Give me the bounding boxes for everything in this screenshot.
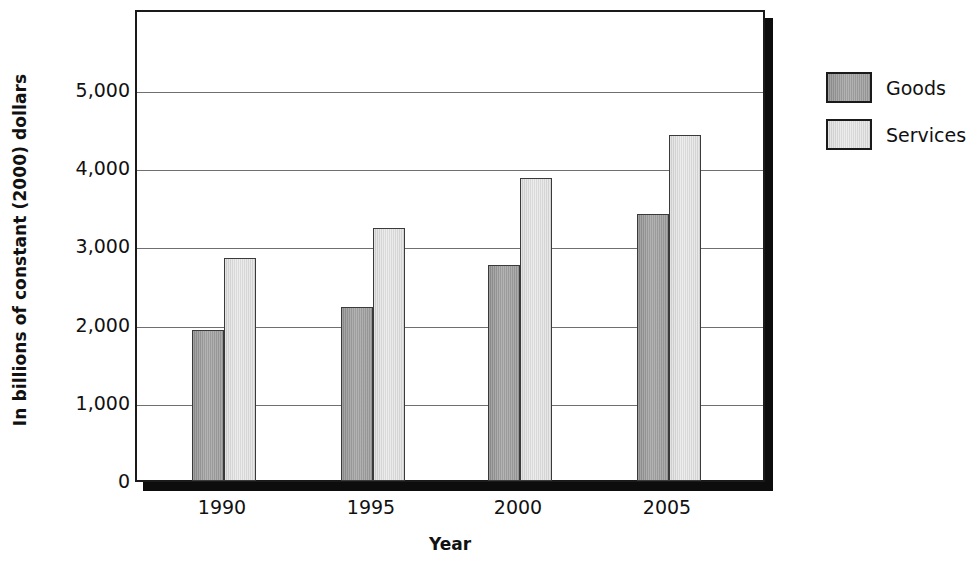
y-tick-label: 0 [52,470,130,492]
x-tick-label-2000: 2000 [458,496,578,518]
services-swatch [826,119,872,150]
x-tick-label-1990: 1990 [162,496,282,518]
x-axis-title: Year [135,534,765,554]
plot-frame-right-shadow [765,18,773,490]
bar-services-1990 [224,258,256,481]
plot-area [135,10,765,482]
y-tick-label: 4,000 [52,157,130,179]
y-axis-tick-labels: 01,0002,0003,0004,0005,000 [44,0,130,567]
bar-goods-2005 [637,214,669,481]
y-tick-label: 3,000 [52,235,130,257]
bar-goods-1995 [341,307,373,481]
plot-frame-bottom-shadow [143,482,773,491]
bar-services-2000 [520,178,552,481]
bar-services-2005 [669,135,701,481]
gridline [137,92,763,93]
legend-item-goods: Goods [826,64,976,111]
y-axis-title-text: In billions of constant (2000) dollars [10,74,30,426]
goods-swatch [826,72,872,103]
legend-label: Services [886,124,966,146]
bar-services-1995 [373,228,405,481]
y-tick-label: 1,000 [52,392,130,414]
x-tick-label-2005: 2005 [607,496,727,518]
chart-legend: GoodsServices [826,64,976,158]
y-axis-title: In billions of constant (2000) dollars [0,0,40,500]
y-tick-label: 2,000 [52,314,130,336]
x-tick-label-1995: 1995 [311,496,431,518]
y-tick-label: 5,000 [52,79,130,101]
legend-item-services: Services [826,111,976,158]
legend-label: Goods [886,77,946,99]
bar-goods-2000 [488,265,520,481]
bar-goods-1990 [192,330,224,481]
